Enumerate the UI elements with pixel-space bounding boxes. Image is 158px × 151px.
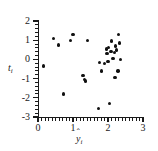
x-tick-minor [139, 117, 140, 121]
scatter-point [98, 61, 101, 64]
x-tick-minor [90, 117, 91, 121]
scatter-point [117, 33, 120, 36]
x-tick-minor [83, 117, 84, 121]
y-tick-label: 0 [14, 54, 30, 64]
scatter-point [71, 33, 74, 36]
scatter-point [116, 69, 119, 72]
y-axis-title: ti [8, 62, 13, 75]
x-tick-minor [41, 117, 42, 121]
y-tick-label: 1 [14, 35, 30, 45]
scatter-point [52, 37, 55, 40]
x-tick-minor [66, 117, 67, 121]
scatter-point [107, 46, 110, 49]
x-tick-minor [125, 117, 126, 121]
x-tick-label: 1 [66, 123, 80, 133]
scatter-point [111, 57, 114, 60]
x-tick-label: 0 [31, 123, 45, 133]
scatter-point [119, 58, 122, 61]
x-tick-minor [48, 117, 49, 121]
scatter-point [106, 60, 109, 63]
x-tick-minor [118, 117, 119, 121]
x-tick-minor [62, 117, 63, 121]
x-tick-minor [55, 117, 56, 121]
x-tick-minor [104, 117, 105, 121]
x-tick-minor [122, 117, 123, 121]
y-tick-label: -1 [14, 74, 30, 84]
x-tick-minor [94, 117, 95, 121]
x-tick-minor [101, 117, 102, 121]
scatter-point [81, 74, 84, 77]
x-tick-minor [76, 117, 77, 121]
x-tick-label: 3 [136, 123, 150, 133]
x-tick-minor [115, 117, 116, 121]
x-axis-title: ̂yi [76, 133, 82, 146]
x-tick-minor [87, 117, 88, 121]
scatter-point [86, 39, 89, 42]
x-tick-label: 2 [101, 123, 115, 133]
scatter-point [118, 41, 121, 44]
x-tick-minor [136, 117, 137, 121]
scatter-point [110, 39, 113, 42]
y-tick-label: -2 [14, 93, 30, 103]
scatter-point [57, 43, 60, 46]
x-tick-minor [59, 117, 60, 121]
scatter-point [62, 92, 65, 95]
scatter-point [108, 102, 111, 105]
x-tick-minor [69, 117, 70, 121]
x-tick-minor [111, 117, 112, 121]
scatter-point [100, 69, 103, 72]
x-tick-minor [52, 117, 53, 121]
x-tick-minor [80, 117, 81, 121]
y-tick-label: -3 [14, 112, 30, 122]
x-tick-minor [45, 117, 46, 121]
scatter-point [109, 50, 112, 53]
scatter-point [84, 79, 87, 82]
x-tick-minor [132, 117, 133, 121]
scatter-point [69, 39, 72, 42]
scatter-points-layer [38, 21, 143, 117]
residual-scatter-plot: 210-1-2-30123 ti ̂yi [0, 0, 158, 151]
y-tick-label: 2 [14, 16, 30, 26]
scatter-point [113, 76, 116, 79]
scatter-point [42, 64, 45, 67]
scatter-point [105, 52, 108, 55]
scatter-point [97, 107, 100, 110]
x-tick-minor [97, 117, 98, 121]
x-tick-minor [129, 117, 130, 121]
scatter-point [115, 48, 118, 51]
